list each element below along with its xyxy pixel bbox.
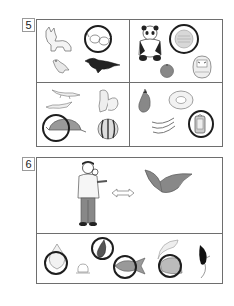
- answer-circle: [84, 25, 112, 53]
- answer-circle: [44, 251, 68, 275]
- grid-divider-horizontal: [36, 82, 223, 83]
- double-arrow-icon: [111, 188, 135, 198]
- answer-circle: [91, 237, 114, 260]
- answer-circle: [169, 24, 199, 54]
- sparrow-image[interactable]: [51, 58, 71, 75]
- grid-divider-vertical: [129, 19, 130, 147]
- answer-circle: [158, 254, 182, 278]
- donut-image[interactable]: [168, 90, 194, 110]
- question-number-6: 6: [22, 157, 35, 171]
- fox-image[interactable]: [43, 27, 73, 53]
- feather-image[interactable]: [197, 244, 211, 280]
- bananas-image[interactable]: [150, 116, 176, 138]
- lizard-image-2[interactable]: [45, 101, 73, 111]
- eggplant-image[interactable]: [137, 88, 152, 114]
- answer-circle: [42, 114, 70, 142]
- rice-ball-image[interactable]: [76, 263, 90, 275]
- box-divider-horizontal: [36, 233, 223, 234]
- bird-flying-image[interactable]: [144, 168, 194, 198]
- man-with-glasses-image[interactable]: [75, 160, 111, 228]
- lizard-image[interactable]: [51, 88, 81, 100]
- watermelon-image[interactable]: [97, 118, 119, 140]
- panda-image[interactable]: [137, 25, 163, 62]
- apple-image[interactable]: [159, 62, 175, 78]
- question-number-5: 5: [22, 18, 35, 32]
- daruma-doll-image[interactable]: [191, 55, 213, 79]
- squirrel-image[interactable]: [96, 88, 120, 114]
- answer-circle: [113, 255, 137, 279]
- answer-circle: [188, 110, 214, 138]
- crow-image[interactable]: [84, 57, 122, 75]
